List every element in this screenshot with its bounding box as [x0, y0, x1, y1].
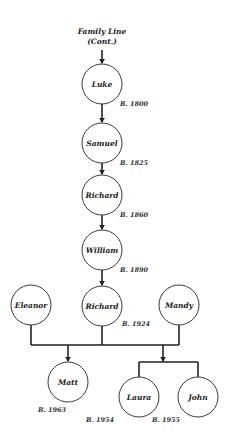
arrow-head-icon	[99, 225, 105, 230]
arrow-head-icon	[99, 59, 105, 64]
birth-year-label: B. 1955	[151, 416, 181, 424]
person-name: Luke	[91, 80, 113, 89]
person-node-laura: LauraB. 1954	[85, 377, 159, 424]
person-node-richard-1924: RichardB. 1924	[82, 286, 151, 328]
birth-year-label: B. 1963	[37, 406, 67, 414]
person-name: Laura	[126, 393, 152, 402]
person-name: Richard	[84, 302, 119, 311]
birth-year-label: B. 1924	[121, 320, 151, 328]
person-node-samuel: SamuelB. 1825	[82, 123, 149, 167]
person-node-matt: MattB. 1963	[37, 362, 88, 414]
arrow-head-icon	[65, 357, 71, 362]
birth-year-label: B. 1860	[119, 211, 149, 219]
person-name: John	[186, 393, 207, 402]
header-line-2: (Cont.)	[87, 37, 117, 46]
birth-year-label: B. 1954	[85, 416, 115, 424]
person-node-john: JohnB. 1955	[151, 377, 218, 424]
people-nodes: LukeB. 1800SamuelB. 1825RichardB. 1860Wi…	[11, 64, 218, 424]
header-line-1: Family Line	[77, 27, 127, 36]
person-name: Eleanor	[14, 301, 49, 310]
person-node-william: WilliamB. 1890	[82, 230, 149, 274]
person-name: William	[86, 246, 119, 255]
person-node-luke: LukeB. 1800	[82, 64, 149, 108]
person-name: Richard	[84, 191, 119, 200]
person-node-eleanor: Eleanor	[11, 285, 51, 325]
birth-year-label: B. 1825	[119, 159, 149, 167]
person-name: Samuel	[86, 139, 117, 148]
arrow-head-icon	[99, 281, 105, 286]
person-name: Matt	[57, 378, 79, 387]
person-node-richard-1860: RichardB. 1860	[82, 175, 149, 219]
arrow-head-icon	[99, 170, 105, 175]
birth-year-label: B. 1800	[119, 100, 149, 108]
person-name: Mandy	[164, 301, 194, 310]
person-node-mandy: Mandy	[159, 285, 199, 325]
family-tree-diagram: Family Line (Cont.) LukeB. 1800SamuelB. …	[0, 0, 231, 444]
arrow-head-icon	[99, 118, 105, 123]
birth-year-label: B. 1890	[119, 266, 149, 274]
